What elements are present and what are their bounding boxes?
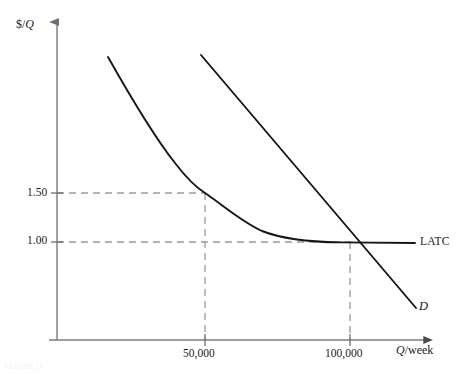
x-axis-title: Q/week [396, 344, 433, 356]
xtick-label-50000: 50,000 [183, 348, 215, 360]
latc-curve [108, 57, 415, 243]
economics-figure: $/Q Q/week 1.50 1.00 50,000 100,000 LATC… [0, 0, 458, 374]
demand-curve-label: D [419, 300, 428, 313]
y-axis-title: $/Q [16, 18, 34, 30]
ytick-label-150: 1.50 [27, 187, 47, 199]
demand-curve [201, 55, 416, 308]
chart-canvas [0, 0, 458, 374]
latc-curve-label: LATC [420, 236, 450, 248]
ytick-label-100: 1.00 [27, 235, 47, 247]
figure-caption: FIGURE 11 [4, 363, 43, 371]
xtick-label-100000: 100,000 [325, 348, 362, 360]
